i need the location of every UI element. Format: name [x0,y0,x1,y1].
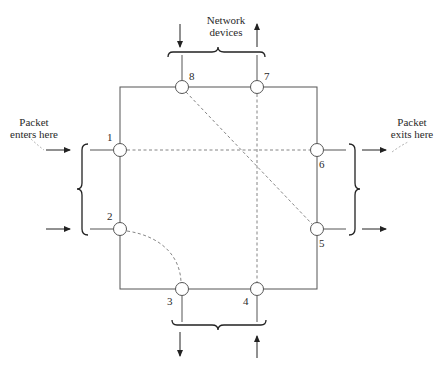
packet-enters-label: Packet enters here [4,116,64,140]
node-8 [176,81,189,94]
top-brace [168,47,265,57]
arrows [46,24,386,358]
network-label-line1: Network [196,14,256,26]
switch-box [120,87,317,289]
node-4-label: 4 [243,296,249,307]
network-devices-label: Network devices [196,14,256,38]
node-6 [311,144,324,157]
node-4 [251,283,264,296]
node-7-label: 7 [264,71,270,82]
switch-fabric-diagram: Network devices Packet enters here Packe… [0,0,447,383]
nodes [114,81,324,296]
network-label-line2: devices [196,26,256,38]
node-3 [176,283,189,296]
node-7 [251,81,264,94]
enter-label-line2: enters here [4,128,64,140]
node-5-label: 5 [319,238,325,249]
node-8-label: 8 [189,71,195,82]
braces [77,47,360,330]
node-3-label: 3 [167,296,173,307]
node-6-label: 6 [319,159,325,170]
packet-exits-label: Packet exits here [382,116,442,140]
path-8-to-5 [186,92,312,224]
node-2-label: 2 [107,211,113,222]
node-stubs [90,55,346,322]
path-2-to-3 [127,231,181,282]
enter-label-line1: Packet [4,116,64,128]
node-1-label: 1 [107,132,113,143]
node-1 [114,144,127,157]
bottom-brace [172,320,266,330]
internal-paths [127,92,312,282]
right-brace [349,144,360,235]
node-2 [114,223,127,236]
left-brace [77,144,88,235]
diagram-graphics [0,0,447,383]
exit-label-line2: exits here [382,128,442,140]
node-5 [311,223,324,236]
exit-label-line1: Packet [382,116,442,128]
